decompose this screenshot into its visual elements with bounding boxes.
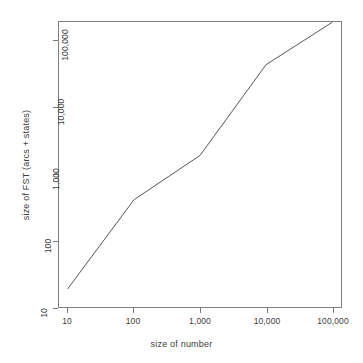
- x-axis-tick-100: [133, 308, 134, 313]
- x-axis-title: size of number: [0, 339, 363, 349]
- x-tick-label-2: 1,000: [189, 316, 211, 326]
- x-axis-tick-10000: [267, 308, 268, 313]
- y-axis-tick-100: [53, 241, 58, 242]
- x-axis-tick-100000: [333, 308, 334, 313]
- x-tick-label-3: 10,000: [254, 316, 281, 326]
- y-axis-tick-100000: [53, 40, 58, 41]
- y-tick-label-3: 10,000: [56, 99, 66, 126]
- x-axis-tick-1000: [200, 308, 201, 313]
- y-tick-label-1: 100: [43, 239, 53, 253]
- y-axis-title: size of FST (arcs + states): [21, 110, 31, 221]
- y-tick-label-4: 100,000: [60, 29, 70, 60]
- y-tick-label-2: 1,000: [51, 168, 61, 190]
- x-tick-label-4: 100,000: [317, 316, 348, 326]
- chart-figure: 10 100 1,000 10,000 100,000 10 100 1,000…: [0, 0, 363, 363]
- y-tick-label-0: 10: [39, 308, 49, 318]
- data-line-svg: [59, 22, 341, 307]
- plot-area: [58, 21, 342, 308]
- x-tick-label-1: 100: [126, 316, 140, 326]
- y-axis-tick-10: [53, 308, 58, 309]
- x-tick-label-0: 10: [62, 316, 72, 326]
- data-series-line: [68, 22, 332, 288]
- x-axis-tick-10: [67, 308, 68, 313]
